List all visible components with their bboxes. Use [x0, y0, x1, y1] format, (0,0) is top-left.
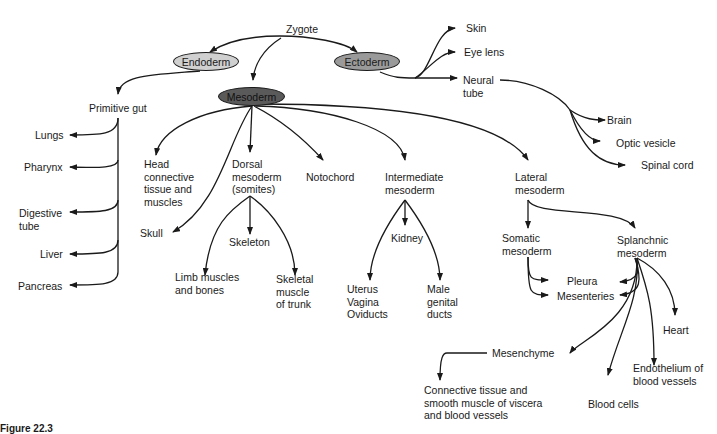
- node-head-connective: Head connective tissue and muscles: [144, 158, 194, 208]
- node-heart: Heart: [663, 324, 689, 337]
- figure-caption: Figure 22.3: [0, 423, 53, 434]
- node-mesenchyme: Mesenchyme: [492, 347, 554, 360]
- node-kidney: Kidney: [391, 232, 423, 245]
- node-eye-lens: Eye lens: [464, 46, 504, 59]
- node-pharynx: Pharynx: [24, 161, 63, 174]
- node-neural-tube: Neural tube: [463, 74, 494, 99]
- node-lungs: Lungs: [35, 129, 64, 142]
- node-somatic-mesoderm: Somatic mesoderm: [502, 232, 552, 257]
- node-skin: Skin: [466, 22, 486, 35]
- node-endothelium: Endothelium of blood vessels: [633, 362, 703, 387]
- node-intermediate-mesoderm: Intermediate mesoderm: [385, 171, 443, 196]
- node-brain: Brain: [607, 114, 632, 127]
- node-liver: Liver: [40, 248, 63, 261]
- node-skeleton: Skeleton: [229, 236, 270, 249]
- node-zygote: Zygote: [286, 23, 318, 36]
- node-pleura: Pleura: [567, 275, 597, 288]
- node-ectoderm: Ectoderm: [334, 52, 400, 71]
- node-mesenteries: Mesenteries: [557, 290, 614, 303]
- node-primitive-gut: Primitive gut: [89, 102, 147, 115]
- node-notochord: Notochord: [306, 171, 354, 184]
- node-pancreas: Pancreas: [18, 280, 62, 293]
- node-spinal-cord: Spinal cord: [641, 159, 694, 172]
- node-blood-cells: Blood cells: [588, 398, 639, 411]
- node-endoderm: Endoderm: [173, 52, 239, 71]
- node-digestive-tube: Digestive tube: [19, 207, 62, 232]
- node-limb-muscles: Limb muscles and bones: [175, 271, 239, 296]
- node-lateral-mesoderm: Lateral mesoderm: [515, 171, 565, 196]
- node-connective-tissue: Connective tissue and smooth muscle of v…: [424, 384, 542, 422]
- node-splanchnic-mesoderm: Splanchnic mesoderm: [617, 234, 668, 259]
- node-mesoderm: Mesoderm: [218, 87, 285, 106]
- node-skull: Skull: [140, 227, 163, 240]
- node-skeletal-muscle: Skeletal muscle of trunk: [276, 273, 313, 311]
- node-male-genital-ducts: Male genital ducts: [427, 283, 458, 321]
- node-dorsal-mesoderm: Dorsal mesoderm (somites): [232, 158, 282, 196]
- node-uterus-vagina-oviducts: Uterus Vagina Oviducts: [347, 283, 388, 321]
- node-optic-vesicle: Optic vesicle: [616, 137, 676, 150]
